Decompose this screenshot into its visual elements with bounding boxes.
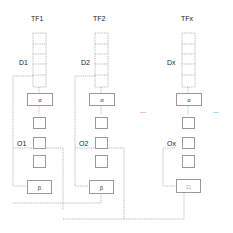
data-label-d1: D1 — [19, 59, 28, 66]
alpha-symbol: α — [90, 97, 114, 103]
column-title-tf2: TF2 — [93, 15, 105, 22]
data-label-d2: D2 — [81, 59, 90, 66]
output-label-o2: O2 — [79, 140, 88, 147]
data-label-dx: Dx — [167, 59, 176, 66]
output-cell — [33, 155, 46, 168]
alpha-symbol: α — [28, 97, 52, 103]
beta-box-tf2: β — [89, 180, 114, 194]
output-cell — [95, 117, 108, 129]
output-cell — [182, 137, 195, 149]
output-cell — [33, 137, 46, 149]
beta-box-tfx: □ — [176, 179, 201, 193]
output-cell — [182, 117, 195, 129]
beta-box-tf1: β — [27, 180, 52, 194]
beta-symbol: β — [90, 185, 113, 191]
beta-symbol: □ — [177, 184, 200, 190]
output-cell — [95, 137, 108, 149]
column-title-tfx: TFx — [181, 15, 193, 22]
alpha-box-tf1: α — [27, 93, 53, 106]
column-title-tf1: TF1 — [31, 15, 43, 22]
alpha-box-tf2: α — [89, 93, 115, 106]
output-cell — [95, 155, 108, 168]
output-cell — [33, 117, 46, 129]
ellipsis-after-columns: ... — [213, 107, 219, 114]
output-label-o1: O1 — [17, 140, 26, 147]
alpha-symbol: α — [177, 97, 201, 103]
alpha-box-tfx: α — [176, 93, 202, 106]
ellipsis-between-columns: ... — [140, 107, 146, 114]
beta-symbol: β — [28, 185, 51, 191]
output-label-ox: Ox — [167, 140, 176, 147]
output-cell — [182, 155, 195, 168]
